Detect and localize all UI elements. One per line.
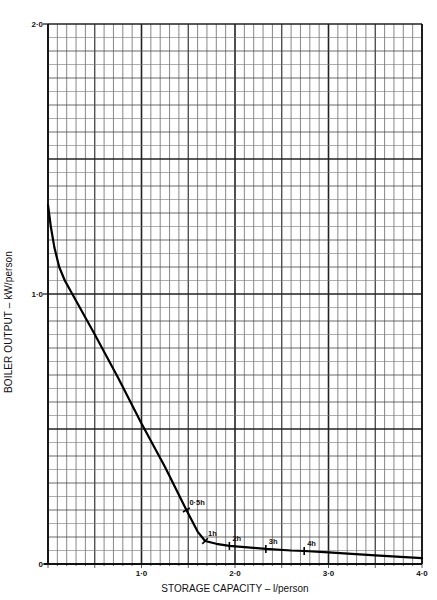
chart-plot bbox=[0, 0, 437, 600]
annotation-label: 2h bbox=[232, 534, 241, 543]
annotation-label: 3h bbox=[269, 537, 278, 546]
x-tick-label: 4·0 bbox=[416, 569, 428, 578]
annotation-label: 1h bbox=[208, 529, 217, 538]
x-tick-label: 1·0 bbox=[136, 569, 148, 578]
y-axis-label: BOILER OUTPUT – kW/person bbox=[3, 251, 14, 393]
y-tick-label: 0 bbox=[39, 560, 43, 569]
y-tick-label: 1·0 bbox=[31, 290, 43, 299]
annotation-label: 0·5h bbox=[189, 498, 204, 507]
y-tick-label: 2·0 bbox=[31, 20, 43, 29]
x-axis-label: STORAGE CAPACITY – l/person bbox=[161, 583, 308, 594]
axis-ticks bbox=[43, 24, 422, 568]
x-tick-label: 3·0 bbox=[323, 569, 335, 578]
x-tick-label: 2·0 bbox=[229, 569, 241, 578]
grid-lines bbox=[48, 24, 422, 564]
annotation-label: 4h bbox=[307, 539, 316, 548]
